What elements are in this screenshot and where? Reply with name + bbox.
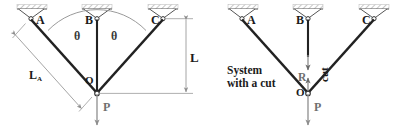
dim-line-la — [16, 35, 82, 109]
label-dimension-la-subscript: A — [37, 75, 42, 83]
label-support-b: B — [85, 14, 93, 26]
label-cut: cut — [319, 67, 330, 82]
label-dimension-la-base: L — [29, 68, 37, 82]
caption-system-line1: System — [227, 65, 262, 77]
figure-canvas: A B C θ θ O P L LA A B C System with a c… — [0, 0, 401, 136]
label-support-c: C — [151, 14, 160, 26]
dim-ext-la-top — [13, 24, 26, 39]
label-angle-theta-left: θ — [74, 30, 80, 42]
label-dimension-l: L — [190, 51, 199, 64]
label-joint-o: O — [85, 75, 94, 86]
diagram-vector-layer — [0, 0, 401, 136]
label-support-b-cut: B — [296, 14, 304, 26]
bar-co — [97, 20, 163, 94]
dim-ext-la-bottom — [79, 97, 92, 112]
label-reaction-r: R — [298, 72, 306, 84]
label-load-p: P — [103, 101, 110, 113]
label-support-a: A — [36, 14, 45, 26]
label-support-c-cut: C — [362, 14, 371, 26]
label-angle-theta-right: θ — [111, 30, 117, 42]
label-dimension-la: LA — [29, 69, 42, 81]
label-joint-o-cut: O — [296, 87, 305, 98]
label-support-a-cut: A — [247, 14, 256, 26]
caption-system-line2: with a cut — [227, 78, 276, 90]
label-load-p-cut: P — [314, 101, 321, 113]
